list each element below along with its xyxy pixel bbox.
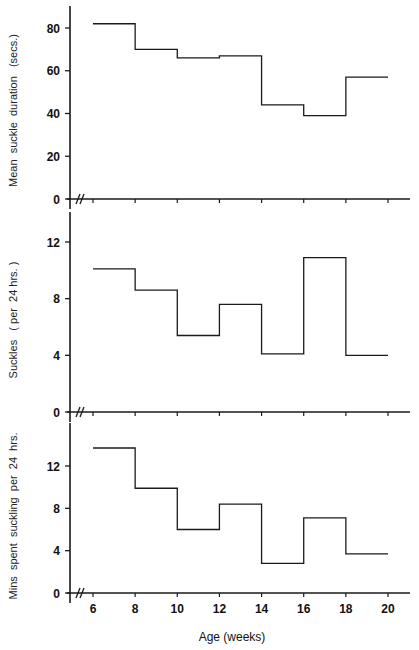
y-axis-label: Suckles ( per 24 hrs. ) (7, 262, 19, 379)
x-tick-label: 20 (381, 602, 395, 616)
panel-mins-spent-suckling: 04812Mins spent suckling per 24 hrs. (7, 423, 410, 603)
x-tick-label: 10 (171, 602, 185, 616)
x-axis-tick-labels: 68101214161820 (90, 602, 395, 616)
y-tick-label: 20 (47, 150, 61, 164)
y-tick-label: 0 (53, 406, 60, 420)
x-tick-label: 14 (255, 602, 269, 616)
y-tick-label: 4 (53, 544, 60, 558)
y-tick-label: 60 (47, 64, 61, 78)
chart-figure: 020406080Mean suckle duration (secs.) 04… (0, 0, 419, 650)
y-tick-label: 0 (53, 193, 60, 207)
x-tick-label: 12 (213, 602, 227, 616)
y-tick-label: 40 (47, 107, 61, 121)
step-series-line (93, 24, 388, 116)
x-tick-label: 18 (339, 602, 353, 616)
y-axis-label: Mean suckle duration (secs.) (7, 34, 19, 187)
step-series-line (93, 448, 388, 563)
y-tick-label: 8 (53, 292, 60, 306)
y-tick-label: 12 (47, 460, 61, 474)
step-series-line (93, 258, 388, 356)
x-tick-label: 8 (132, 602, 139, 616)
x-axis-label: Age (weeks) (199, 630, 266, 644)
y-axis-label: Mins spent suckling per 24 hrs. (7, 433, 19, 600)
panel-mean-suckle-duration: 020406080Mean suckle duration (secs.) (7, 6, 410, 209)
y-tick-label: 0 (53, 587, 60, 601)
y-tick-label: 80 (47, 22, 61, 36)
y-tick-label: 8 (53, 502, 60, 516)
x-tick-label: 16 (297, 602, 311, 616)
panel-suckles-per-24hrs: 04812Suckles ( per 24 hrs. ) (7, 212, 410, 422)
y-tick-label: 4 (53, 349, 60, 363)
x-tick-label: 6 (90, 602, 97, 616)
y-tick-label: 12 (47, 236, 61, 250)
